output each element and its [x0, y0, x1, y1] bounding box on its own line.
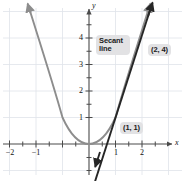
x-tick-label--1: −1 [28, 148, 44, 157]
y-axis-label: y [92, 1, 96, 10]
x-axis-label: x [175, 138, 179, 147]
secant-line-lower-arrow [95, 152, 100, 167]
y-tick-label-2: 2 [71, 86, 83, 95]
point-label-2-4: (2, 4) [148, 44, 171, 56]
point-label-1-1: (1, 1) [120, 122, 143, 134]
y-tick-label-1: 1 [71, 113, 83, 122]
secant-line-annotation: Secant line [96, 35, 130, 55]
y-axis [86, 9, 93, 175]
graph-figure: −2 −1 1 2 1 2 3 4 x y Secant line (2, 4)… [0, 0, 185, 181]
x-tick-label-2: 2 [134, 148, 150, 157]
y-tick-label-3: 3 [71, 60, 83, 69]
y-tick-label-4: 4 [71, 33, 83, 42]
x-tick-label--2: −2 [2, 148, 18, 157]
x-tick-label-1: 1 [108, 148, 124, 157]
